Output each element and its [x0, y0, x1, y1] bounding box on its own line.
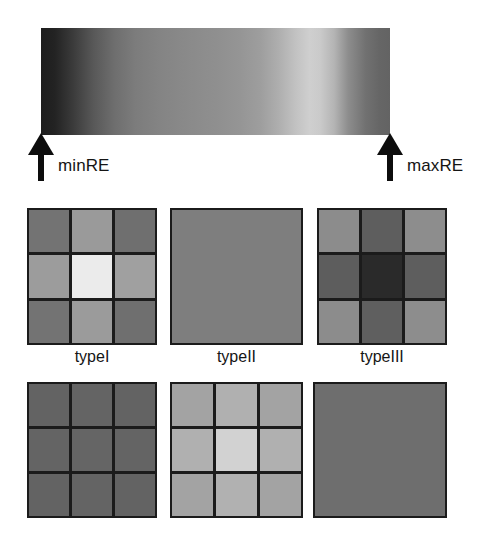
tile-bottom-left: [27, 382, 157, 518]
tile-cell: [405, 255, 445, 297]
tile-cell: [319, 210, 359, 252]
colorbar-group: [41, 28, 390, 135]
tile-cell: [172, 384, 213, 426]
tile-cell: [319, 255, 359, 297]
tile-cell: [358, 384, 401, 428]
tile-cell: [362, 255, 402, 297]
tile-typeIII: [317, 208, 447, 345]
max-arrow-icon: [377, 133, 403, 181]
tile-cell: [215, 210, 258, 254]
relative-entropy-colorbar: [41, 28, 390, 135]
tile-bottom-middle: [170, 382, 303, 518]
tile-cell: [405, 210, 445, 252]
tile-cell: [358, 472, 401, 516]
tile-cell: [216, 384, 257, 426]
arrow-shaft: [387, 147, 393, 181]
tile-cell: [402, 472, 445, 516]
tile-cell: [29, 384, 69, 426]
tile-cell: [258, 210, 301, 254]
tile-cell: [72, 301, 112, 343]
tile-cell: [319, 301, 359, 343]
tile-cell: [260, 429, 301, 471]
tile-cell: [115, 474, 155, 516]
tile-cell: [216, 429, 257, 471]
tile-cell: [72, 429, 112, 471]
tile-cell: [172, 210, 215, 254]
tile-typeI: [27, 208, 157, 345]
max-re-label: maxRE: [407, 156, 463, 176]
tile-cell: [260, 474, 301, 516]
tile-bottom-right: [313, 382, 447, 518]
tile-cell: [115, 210, 155, 252]
tile-cell: [402, 384, 445, 428]
tile-cell: [29, 301, 69, 343]
tile-cell: [29, 429, 69, 471]
tile-cell: [29, 474, 69, 516]
tile-cell: [172, 474, 213, 516]
tile-cell: [402, 428, 445, 472]
tile-cell: [72, 384, 112, 426]
tile-cell: [115, 384, 155, 426]
tile-cell: [362, 210, 402, 252]
tile-cell: [362, 301, 402, 343]
tile-cell: [115, 301, 155, 343]
tile-cell: [29, 210, 69, 252]
tile-cell: [72, 255, 112, 297]
tile-cell: [258, 254, 301, 298]
figure-canvas: minRE maxRE typeI typeII typeIII: [0, 0, 484, 542]
tile-cell: [172, 429, 213, 471]
arrow-shaft: [38, 147, 44, 181]
tile-cell: [72, 474, 112, 516]
tile-cell: [358, 428, 401, 472]
tile-cell: [215, 254, 258, 298]
min-re-label: minRE: [58, 156, 110, 176]
tile-label-typeIII: typeIII: [317, 348, 447, 366]
tile-typeII: [170, 208, 303, 345]
tile-cell: [172, 299, 215, 343]
tile-cell: [260, 384, 301, 426]
tile-cell: [115, 255, 155, 297]
tile-cell: [115, 429, 155, 471]
tile-cell: [315, 472, 358, 516]
tile-cell: [172, 254, 215, 298]
tile-cell: [405, 301, 445, 343]
tile-label-typeI: typeI: [27, 348, 157, 366]
tile-cell: [315, 428, 358, 472]
min-arrow-icon: [28, 133, 54, 181]
tile-label-typeII: typeII: [170, 348, 303, 366]
tile-cell: [72, 210, 112, 252]
tile-cell: [29, 255, 69, 297]
tile-cell: [258, 299, 301, 343]
tile-cell: [216, 474, 257, 516]
tile-cell: [315, 384, 358, 428]
tile-cell: [215, 299, 258, 343]
